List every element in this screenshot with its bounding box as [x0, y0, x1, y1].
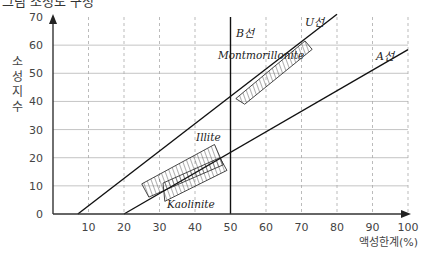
U선-line — [78, 14, 337, 214]
lines — [78, 14, 408, 214]
kaolinite-label: Kaolinite — [166, 198, 215, 210]
B선-label: B선 — [235, 27, 256, 40]
x-tick-label: 70 — [295, 221, 309, 234]
y-tick-label: 0 — [36, 208, 43, 221]
x-axis-arrow-icon — [401, 210, 411, 218]
y-tick-label: 40 — [29, 95, 43, 108]
x-axis-label: 액성한계(%) — [359, 236, 418, 249]
plasticity-chart: 010203040506070102030405060708090100액성한계… — [0, 0, 427, 255]
x-tick-label: 90 — [366, 221, 380, 234]
y-tick-label: 30 — [29, 124, 43, 137]
x-tick-label: 40 — [188, 221, 202, 234]
y-tick-label: 60 — [29, 39, 43, 52]
x-tick-label: 80 — [330, 221, 344, 234]
x-tick-label: 20 — [117, 221, 131, 234]
x-tick-label: 100 — [398, 221, 419, 234]
y-axis-arrow-icon — [49, 14, 57, 24]
y-tick-label: 70 — [29, 11, 43, 24]
y-tick-label: 20 — [29, 152, 43, 165]
x-tick-label: 10 — [82, 221, 96, 234]
illite-label: Illite — [195, 131, 221, 143]
x-tick-label: 30 — [153, 221, 167, 234]
x-tick-label: 60 — [259, 221, 273, 234]
A선-label: A선 — [375, 50, 396, 63]
U선-label: U선 — [305, 16, 326, 29]
montmorillonite-label: Montmorillonite — [217, 49, 304, 61]
x-tick-label: 50 — [224, 221, 238, 234]
regions — [142, 41, 312, 201]
y-tick-label: 50 — [29, 67, 43, 80]
y-tick-label: 10 — [29, 180, 43, 193]
